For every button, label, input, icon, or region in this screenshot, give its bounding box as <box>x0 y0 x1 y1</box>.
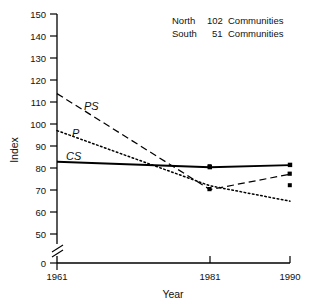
legend-count-north: 102 <box>207 15 223 26</box>
legend-unit-north: Communities <box>228 15 284 26</box>
x-axis-title: Year <box>162 288 184 300</box>
series-label-cs: CS <box>66 150 82 162</box>
data-point-cs-1981 <box>208 165 212 169</box>
series-label-ps: PS <box>84 100 99 112</box>
y-tick-label-100: 100 <box>30 119 46 130</box>
legend-unit-south: Communities <box>228 28 284 39</box>
y-axis-title: Index <box>8 136 20 162</box>
x-tick-label-1990: 1990 <box>279 271 300 282</box>
y-tick-label-150: 150 <box>30 9 46 20</box>
data-point-p-1990 <box>288 183 292 187</box>
x-tick-label-1961: 1961 <box>46 271 67 282</box>
series-label-p: P <box>72 127 80 139</box>
y-tick-label-140: 140 <box>30 31 46 42</box>
legend-count-south: 51 <box>212 28 223 39</box>
line-chart: 150 140 130 120 110 100 90 80 70 60 50 0… <box>0 0 313 304</box>
y-tick-label-0: 0 <box>41 258 46 269</box>
y-tick-label-60: 60 <box>35 207 46 218</box>
legend-region-north: North <box>172 15 195 26</box>
y-tick-label-70: 70 <box>35 185 46 196</box>
chart-container: 150 140 130 120 110 100 90 80 70 60 50 0… <box>0 0 313 304</box>
legend: North 102 Communities South 51 Communiti… <box>172 15 284 39</box>
y-tick-label-130: 130 <box>30 53 46 64</box>
data-point-ps-1981 <box>207 187 211 191</box>
y-tick-label-120: 120 <box>30 75 46 86</box>
y-tick-label-50: 50 <box>35 229 46 240</box>
y-tick-label-110: 110 <box>31 97 46 108</box>
y-axis-ticks <box>50 14 57 263</box>
data-point-cs-1990 <box>288 163 292 167</box>
x-tick-label-1981: 1981 <box>199 271 220 282</box>
y-tick-label-90: 90 <box>35 141 46 152</box>
series-line-cs <box>57 162 290 168</box>
y-tick-label-80: 80 <box>35 163 46 174</box>
data-point-ps-1990 <box>288 172 292 176</box>
legend-region-south: South <box>172 28 197 39</box>
